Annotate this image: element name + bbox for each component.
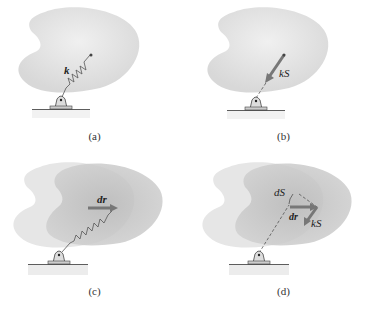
pin-support-icon bbox=[229, 251, 289, 275]
pin-support-icon bbox=[28, 251, 88, 275]
caption-b: (b) bbox=[189, 130, 378, 142]
panel-b: kS (b) bbox=[189, 0, 378, 155]
displacement-label-dr: dr bbox=[97, 193, 107, 205]
force-label-kS: kS bbox=[279, 67, 289, 79]
panel-a: k (a) bbox=[0, 0, 189, 155]
caption-a: (a) bbox=[0, 130, 189, 142]
spring-constant-label: k bbox=[64, 64, 70, 76]
displacement-label-dr: dr bbox=[289, 211, 298, 222]
displaced-body-shape bbox=[235, 164, 351, 246]
pin-support-icon bbox=[227, 97, 285, 119]
stretch-label-dS: dS bbox=[274, 186, 285, 198]
rigid-body-shape bbox=[18, 7, 139, 92]
pin-support-icon bbox=[32, 96, 90, 118]
panel-d: dS dr kS (d) bbox=[189, 155, 378, 310]
caption-d: (d) bbox=[189, 285, 378, 297]
panel-c: dr (c) bbox=[0, 155, 189, 310]
force-label-kS: kS bbox=[311, 217, 321, 229]
caption-c: (c) bbox=[0, 285, 189, 297]
